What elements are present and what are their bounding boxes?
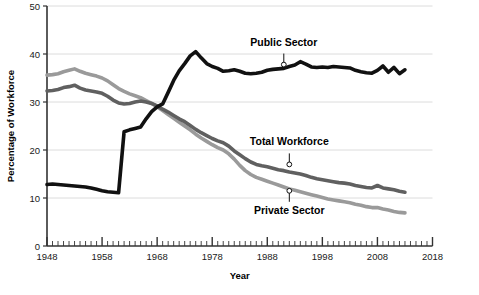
- y-tick-label: 40: [29, 49, 40, 60]
- annotation-marker: [287, 162, 292, 167]
- x-tick-label: 2008: [367, 251, 388, 262]
- y-axis-title: Percentage of Workforce: [5, 70, 16, 182]
- x-tick-label: 1968: [147, 251, 168, 262]
- x-tick-label: 2018: [422, 251, 443, 262]
- line-chart: 1948195819681978198819982008201801020304…: [0, 0, 479, 295]
- annotation-marker: [281, 62, 286, 67]
- y-tick-label: 20: [29, 145, 40, 156]
- series-line-total-workforce: [47, 85, 405, 192]
- y-tick-label: 10: [29, 193, 40, 204]
- x-tick-label: 1988: [257, 251, 278, 262]
- series-line-public-sector: [47, 52, 405, 193]
- series-label-private-sector: Private Sector: [254, 204, 325, 216]
- chart-container: 1948195819681978198819982008201801020304…: [0, 0, 479, 295]
- x-tick-label: 1958: [92, 251, 113, 262]
- x-tick-label: 1948: [36, 251, 57, 262]
- series-label-public-sector: Public Sector: [250, 36, 317, 48]
- annotation-marker: [287, 188, 292, 193]
- x-axis-title: Year: [230, 270, 250, 281]
- y-tick-label: 30: [29, 97, 40, 108]
- x-tick-label: 1978: [202, 251, 223, 262]
- series-label-total-workforce: Total Workforce: [250, 135, 329, 147]
- y-tick-label: 0: [35, 241, 40, 252]
- x-tick-label: 1998: [312, 251, 333, 262]
- y-tick-label: 50: [29, 1, 40, 12]
